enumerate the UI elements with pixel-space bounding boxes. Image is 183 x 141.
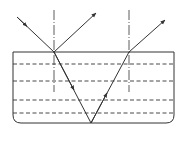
reflected-ray <box>54 13 96 52</box>
reflected-up-arrow <box>91 93 107 123</box>
dashed-layers <box>13 64 174 113</box>
refracted-arrow <box>54 52 74 90</box>
normal-lines <box>54 10 129 92</box>
incident-arrow <box>17 17 27 27</box>
medium-container <box>13 52 174 123</box>
emergent-ray <box>129 20 165 52</box>
optics-diagram <box>0 0 183 141</box>
